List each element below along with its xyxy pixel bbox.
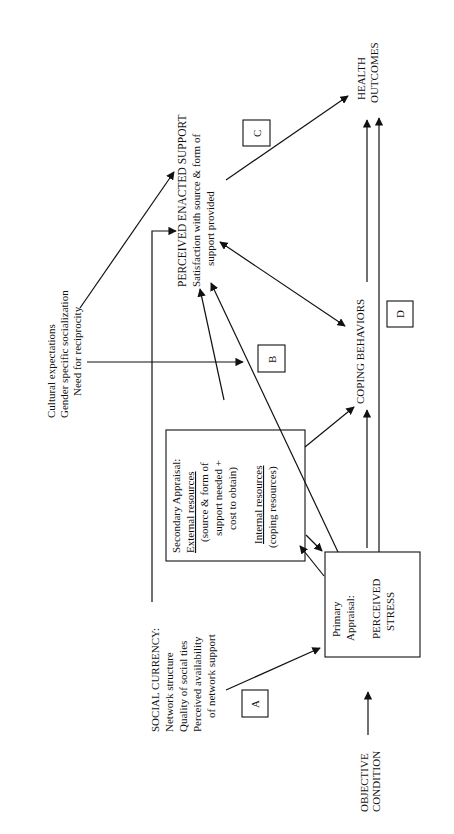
svg-text:Quality of social ties: Quality of social ties [177,641,189,732]
svg-text:OBJECTIVE: OBJECTIVE [358,753,370,812]
svg-text:(coping resources): (coping resources) [266,466,279,548]
cultural-factors-node: Cultural expectations Gender specific so… [45,290,83,418]
svg-text:CONDITION: CONDITION [370,751,382,812]
svg-text:External resources: External resources [184,471,196,553]
svg-text:B: B [266,356,278,363]
svg-text:SOCIAL CURRENCY:: SOCIAL CURRENCY: [149,628,161,732]
svg-text:STRESS: STRESS [384,592,396,631]
svg-text:Cultural expectations: Cultural expectations [45,324,57,418]
primary-appraisal-node: Primary Appraisal: PERCEIVED STRESS [325,552,420,657]
svg-text:support needed +: support needed + [212,460,224,536]
svg-text:Appraisal:: Appraisal: [344,595,356,641]
social-currency-node: SOCIAL CURRENCY: Network structure Quali… [149,628,217,732]
svg-text:Need for reciprocity: Need for reciprocity [71,306,83,396]
path-label-d: D [387,301,413,327]
health-outcomes-node: HEALTH OUTCOMES [355,42,380,103]
conceptual-model-diagram: OBJECTIVE CONDITION SOCIAL CURRENCY: Net… [0,0,454,834]
secondary-appraisal-node: Secondary Appraisal: External resources … [166,430,305,561]
arrow-social-to-primary [226,648,320,690]
objective-condition-node: OBJECTIVE CONDITION [358,751,382,812]
coping-behaviors-node: COPING BEHAVIORS [354,299,366,404]
svg-text:D: D [394,310,406,318]
path-label-b: B [258,345,285,372]
arrow-secondary-to-primary [306,535,322,551]
arrow-secondary-to-enacted-support [200,289,224,400]
svg-text:A: A [249,700,261,708]
arrow-enacted-support-to-health [226,96,348,180]
svg-text:COPING BEHAVIORS: COPING BEHAVIORS [354,299,366,404]
svg-text:support provided: support provided [204,191,216,266]
path-label-a: A [242,690,268,717]
svg-text:C: C [251,130,263,137]
svg-text:Secondary Appraisal:: Secondary Appraisal: [170,459,182,553]
svg-text:Perceived availability: Perceived availability [191,636,203,732]
path-label-c: C [243,120,270,146]
svg-text:OUTCOMES: OUTCOMES [368,42,380,103]
svg-text:Primary: Primary [330,601,342,637]
svg-text:PERCEIVED: PERCEIVED [370,578,382,639]
svg-text:cost to obtain): cost to obtain) [226,467,239,530]
svg-text:HEALTH: HEALTH [355,57,367,100]
svg-text:(source & form of: (source & form of [198,462,211,542]
svg-text:PERCEIVED ENACTED SUPPORT: PERCEIVED ENACTED SUPPORT [176,115,188,287]
svg-text:Network structure: Network structure [163,652,175,732]
arrow-enacted-support-coping-bidirectional [220,242,345,326]
perceived-enacted-support-node: PERCEIVED ENACTED SUPPORT Satisfaction w… [176,115,216,287]
arrow-secondary-to-coping [305,407,354,447]
svg-text:Internal resources: Internal resources [252,466,264,545]
svg-text:of network support: of network support [205,634,217,718]
arrow-cultural-to-enacted-support [80,172,174,308]
svg-text:Satisfaction with source & for: Satisfaction with source & form of [190,134,202,287]
svg-text:Gender specific socialization: Gender specific socialization [58,290,70,418]
